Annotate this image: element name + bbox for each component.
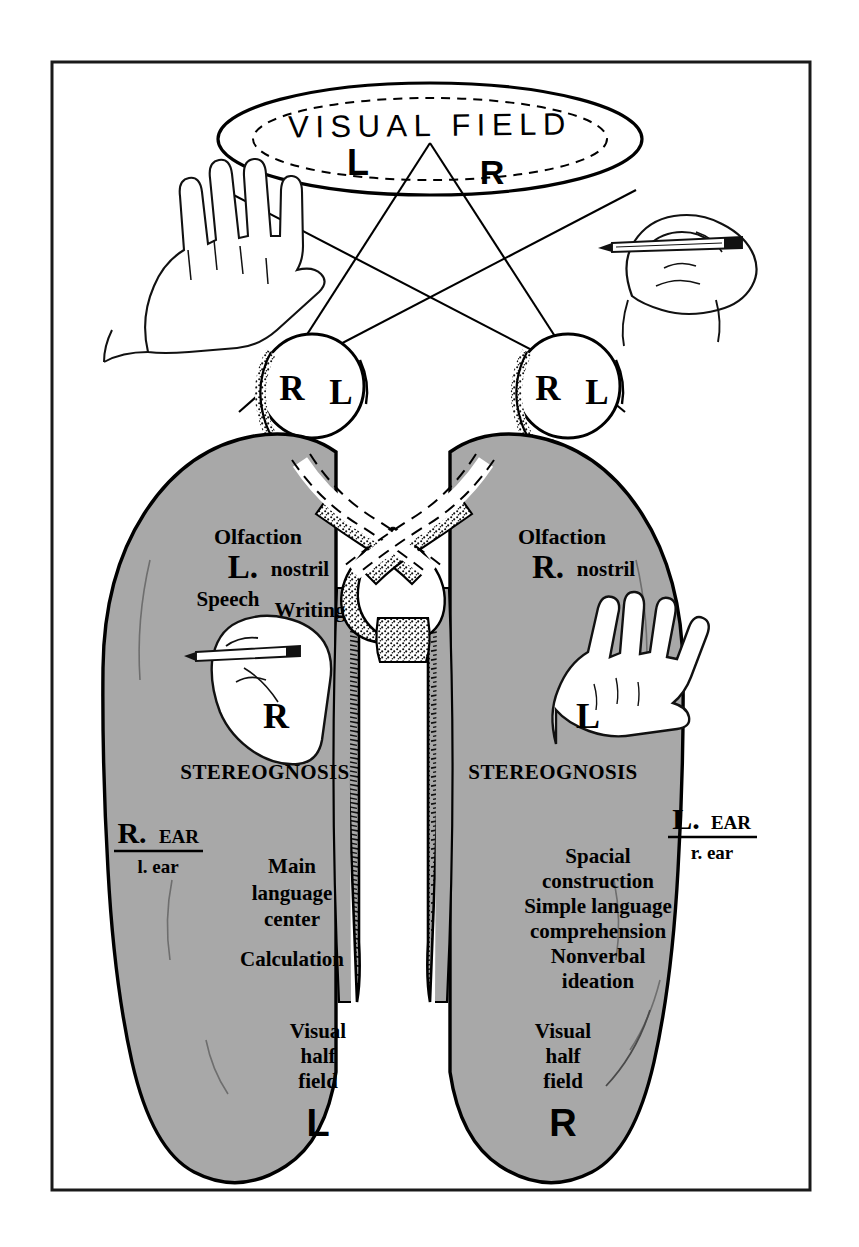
left-olfaction-nostril: nostril [271,557,330,581]
right-function-line-3: comprehension [530,919,666,943]
left-visual-field-line-0: Visual [290,1019,347,1043]
right-ear-caps: EAR [711,812,751,833]
left-olfaction-title: Olfaction [214,524,302,549]
left-ear-caps: EAR [159,826,199,847]
left-olfaction-side: L. [228,549,258,585]
right-visual-field-line-1: half [545,1044,581,1068]
left-function-line-1: language [252,881,333,905]
right-function-line-1: construction [542,869,654,893]
eye-left-label-L: L [329,373,352,412]
brain-lateralization-figure: VISUAL FIELD L R [0,0,859,1247]
right-function-line-0: Spacial [565,844,631,868]
right-olfaction-side: R. [532,549,564,585]
right-function-line-4: Nonverbal [551,944,646,968]
right-olfaction-title: Olfaction [518,524,606,549]
right-visual-field-line-2: field [543,1069,583,1093]
eye-right-label-L: L [585,373,608,412]
right-visual-field-letter: R [549,1102,576,1144]
left-hand-label: R [263,696,290,736]
left-calculation-label: Calculation [240,947,344,971]
eye-right-label-R: R [535,369,561,408]
visual-field-left-label: L [347,142,369,183]
eye-left-label-R: R [279,369,305,408]
right-visual-field-line-0: Visual [535,1019,592,1043]
left-function-line-0: Main [268,854,316,878]
left-ear-small: l. ear [137,856,179,877]
left-function-line-2: center [264,907,320,931]
left-visual-field-line-2: field [298,1069,338,1093]
left-visual-field-line-1: half [300,1044,336,1068]
right-stereognosis-label: STEREOGNOSIS [468,760,637,784]
left-speech-label: Speech [197,587,260,611]
right-hand-label: L [576,696,600,736]
visual-field-right-label: R [480,153,505,191]
right-ear-big: L. [672,802,700,835]
right-olfaction-nostril: nostril [577,557,636,581]
left-visual-field-letter: L [306,1102,329,1144]
right-function-line-2: Simple language [524,894,672,918]
right-ear-small: r. ear [691,842,734,863]
left-ear-big: R. [117,816,146,849]
right-function-line-5: ideation [562,969,635,993]
chiasm-stem [376,618,429,662]
left-stereognosis-label: STEREOGNOSIS [180,760,349,784]
visual-field-title: VISUAL FIELD [288,107,572,145]
